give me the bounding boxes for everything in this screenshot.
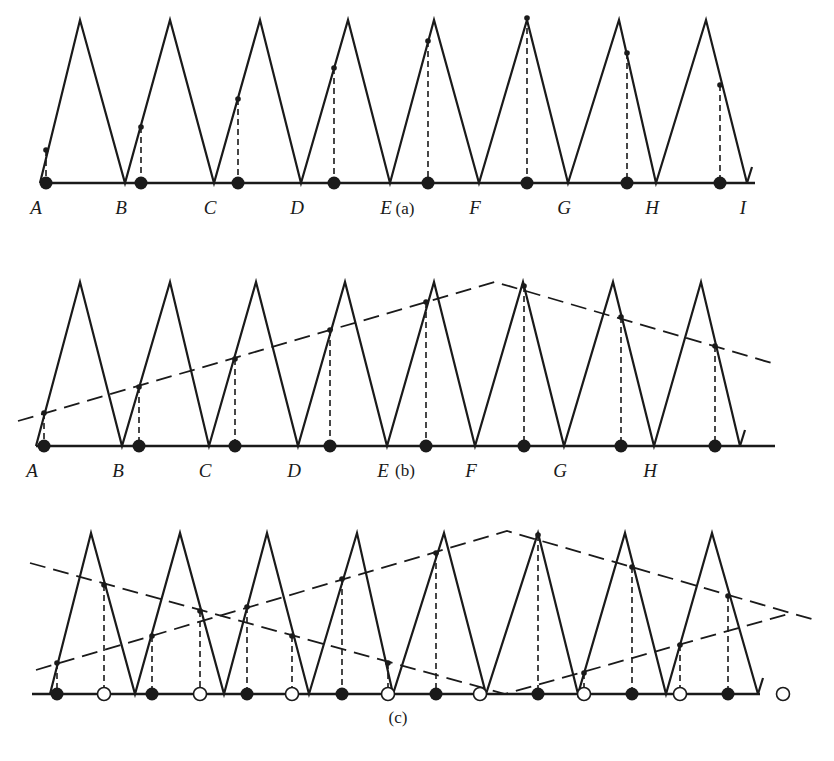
sample-point (717, 82, 723, 88)
point-label: A (24, 460, 38, 481)
filled-sample-marker (615, 440, 628, 453)
sample-point (101, 582, 107, 588)
filled-sample-marker (521, 177, 534, 190)
triangle-wave (40, 20, 747, 183)
point-label: F (464, 460, 477, 481)
filled-sample-marker (336, 688, 349, 701)
sample-point (385, 660, 391, 666)
sample-point (521, 283, 527, 289)
sample-point (244, 604, 250, 610)
sample-point (43, 147, 49, 153)
sample-point (425, 38, 431, 44)
point-label: E (376, 460, 389, 481)
envelope-dashed (36, 531, 815, 670)
point-label: A (28, 197, 42, 218)
sample-point (624, 50, 630, 56)
point-label: C (204, 197, 217, 218)
point-label: H (642, 460, 658, 481)
filled-sample-marker (146, 688, 159, 701)
sample-point (41, 410, 47, 416)
caption-a: (a) (396, 199, 415, 218)
filled-sample-marker (38, 440, 51, 453)
open-sample-marker (286, 688, 299, 701)
sample-point (524, 15, 530, 21)
sample-point (136, 384, 142, 390)
open-sample-marker (674, 688, 687, 701)
filled-sample-marker (420, 440, 433, 453)
sample-point (581, 670, 587, 676)
open-sample-marker (578, 688, 591, 701)
sample-point (712, 343, 718, 349)
envelope-dashed (30, 563, 788, 694)
filled-sample-marker (430, 688, 443, 701)
sample-point (197, 608, 203, 614)
filled-sample-marker (51, 688, 64, 701)
end-tick (747, 167, 752, 183)
filled-sample-marker (626, 688, 639, 701)
filled-sample-marker (232, 177, 245, 190)
sample-point (289, 633, 295, 639)
point-label: I (739, 197, 748, 218)
triangle-wave (50, 533, 758, 694)
filled-sample-marker (133, 440, 146, 453)
filled-sample-marker (135, 177, 148, 190)
sample-point (339, 576, 345, 582)
sample-point (235, 96, 241, 102)
triangle-wave (36, 282, 740, 446)
sample-point (535, 532, 541, 538)
filled-sample-marker (241, 688, 254, 701)
open-sample-marker (382, 688, 395, 701)
open-sample-marker (98, 688, 111, 701)
open-sample-marker (474, 688, 487, 701)
filled-sample-marker (328, 177, 341, 190)
filled-sample-marker (324, 440, 337, 453)
sample-point (725, 593, 731, 599)
sample-point (149, 633, 155, 639)
point-label: F (468, 197, 481, 218)
end-tick (758, 678, 763, 694)
filled-sample-marker (722, 688, 735, 701)
caption-c: (c) (389, 708, 408, 727)
filled-sample-marker (532, 688, 545, 701)
sample-point (677, 642, 683, 648)
envelope-dashed (18, 282, 775, 421)
point-label: G (553, 460, 567, 481)
panel-b: ABCDEFGH (18, 282, 775, 481)
sample-point (232, 356, 238, 362)
filled-sample-marker (714, 177, 727, 190)
panel-c (30, 531, 815, 701)
point-label: C (199, 460, 212, 481)
open-sample-marker (777, 688, 790, 701)
point-label: B (112, 460, 124, 481)
sample-point (423, 299, 429, 305)
point-label: H (644, 197, 660, 218)
open-sample-marker (194, 688, 207, 701)
filled-sample-marker (621, 177, 634, 190)
end-tick (740, 430, 745, 446)
filled-sample-marker (40, 177, 53, 190)
sample-point (629, 564, 635, 570)
sample-point (138, 124, 144, 130)
panel-a: ABCDEFGHI (28, 15, 755, 218)
sampling-diagram: ABCDEFGHI (a) ABCDEFGH (b) (c) (0, 0, 834, 761)
filled-sample-marker (229, 440, 242, 453)
sample-point (54, 660, 60, 666)
filled-sample-marker (422, 177, 435, 190)
point-label: D (286, 460, 301, 481)
sample-point (618, 314, 624, 320)
point-label: G (557, 197, 571, 218)
point-label: D (289, 197, 304, 218)
sample-point (433, 550, 439, 556)
sample-point (327, 327, 333, 333)
sample-point (331, 65, 337, 71)
point-label: B (115, 197, 127, 218)
filled-sample-marker (518, 440, 531, 453)
caption-b: (b) (395, 461, 415, 480)
filled-sample-marker (709, 440, 722, 453)
point-label: E (379, 197, 392, 218)
